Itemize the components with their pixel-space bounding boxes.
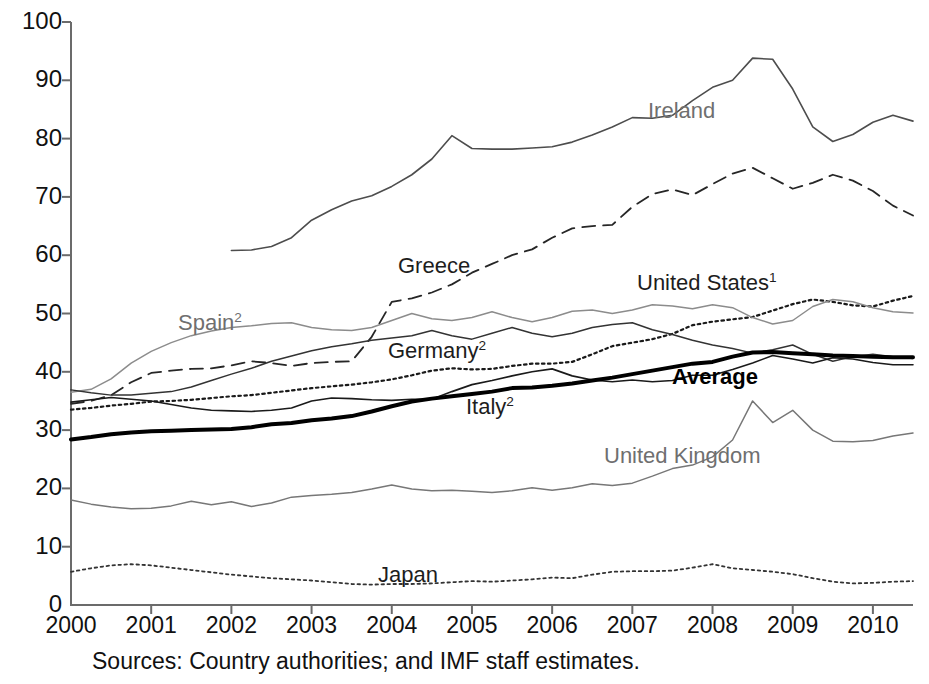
y-axis-tick-label: 100: [22, 9, 62, 33]
y-axis-tick-label: 10: [35, 534, 62, 558]
series-label-average: Average: [672, 366, 758, 388]
series-label-text: Average: [672, 364, 758, 389]
x-axis-tick-label: 2008: [687, 612, 738, 639]
series-line-ireland: [231, 58, 913, 250]
series-label-italy: Italy2: [466, 396, 514, 418]
series-label-germany: Germany2: [388, 340, 486, 362]
series-label-spain: Spain2: [178, 312, 242, 334]
y-axis-tick-label: 70: [35, 184, 62, 208]
x-axis-tick-label: 2003: [286, 612, 337, 639]
footnote-marker: 1: [769, 270, 777, 285]
x-axis-tick-label: 2010: [847, 612, 898, 639]
x-axis-tick-label: 2006: [527, 612, 578, 639]
series-label-text: Italy: [466, 394, 506, 419]
series-label-text: Japan: [378, 562, 438, 587]
series-label-text: Spain: [178, 310, 234, 335]
x-axis-tick-label: 2004: [366, 612, 417, 639]
footnote-marker: 2: [506, 394, 514, 409]
y-axis-tick-label: 30: [35, 417, 62, 441]
y-axis-tick-label: 80: [35, 126, 62, 150]
y-axis-tick-label: 90: [35, 67, 62, 91]
series-label-ireland: Ireland: [648, 100, 715, 122]
series-line-japan: [71, 564, 913, 584]
series-label-text: United States: [637, 270, 769, 295]
x-axis-tick-label: 2007: [607, 612, 658, 639]
series-label-united-kingdom: United Kingdom: [604, 445, 761, 467]
series-label-japan: Japan: [378, 564, 438, 586]
x-axis-tick-label: 2009: [767, 612, 818, 639]
x-axis-tick-label: 2000: [45, 612, 96, 639]
series-line-greece: [71, 168, 913, 404]
y-axis-tick-label: 50: [35, 301, 62, 325]
x-axis-tick-label: 2005: [446, 612, 497, 639]
x-axis-tick-label: 2002: [206, 612, 257, 639]
series-label-greece: Greece: [398, 255, 470, 277]
y-axis-tick-label: 40: [35, 359, 62, 383]
series-label-united-states: United States1: [637, 272, 777, 294]
y-axis-tick-label: 60: [35, 242, 62, 266]
x-axis-tick-label: 2001: [126, 612, 177, 639]
chart-container: 0102030405060708090100 20002001200220032…: [0, 0, 929, 684]
series-label-text: Germany: [388, 338, 478, 363]
series-label-text: Ireland: [648, 98, 715, 123]
series-label-text: Greece: [398, 253, 470, 278]
source-note: Sources: Country authorities; and IMF st…: [92, 648, 640, 675]
y-axis-tick-label: 20: [35, 475, 62, 499]
footnote-marker: 2: [478, 338, 486, 353]
series-label-text: United Kingdom: [604, 443, 761, 468]
footnote-marker: 2: [234, 310, 242, 325]
